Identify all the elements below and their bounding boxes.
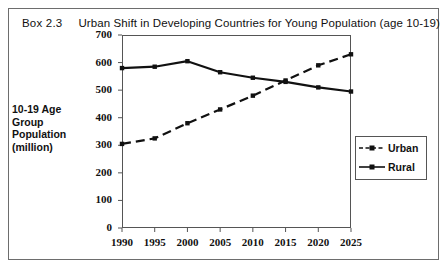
y-tick-label: 700 — [78, 28, 112, 40]
y-tick-label: 0 — [78, 221, 112, 233]
chart-legend: Urban Rural — [355, 136, 427, 180]
box-number-label: Box 2.3 — [22, 17, 62, 29]
x-tick-label: 2005 — [203, 236, 237, 248]
legend-label-urban: Urban — [388, 142, 418, 154]
x-tick-label: 2025 — [334, 236, 368, 248]
y-tick-label: 600 — [78, 56, 112, 68]
x-tick-label: 1995 — [138, 236, 172, 248]
y-tick-label: 400 — [78, 111, 112, 123]
screenshot-root: Box 2.3 Urban Shift in Developing Countr… — [0, 0, 447, 268]
y-tick-label: 300 — [78, 138, 112, 150]
y-tick-label: 200 — [78, 166, 112, 178]
legend-label-rural: Rural — [388, 161, 415, 173]
x-tick-label: 2020 — [301, 236, 335, 248]
legend-swatch-urban-icon — [359, 142, 385, 154]
plot-area-frame — [122, 35, 351, 228]
box-title-label: Urban Shift in Developing Countries for … — [78, 17, 440, 29]
legend-item-rural[interactable]: Rural — [359, 159, 415, 175]
legend-swatch-rural-icon — [359, 161, 385, 173]
legend-item-urban[interactable]: Urban — [359, 140, 418, 156]
x-tick-label: 2000 — [170, 236, 204, 248]
x-tick-label: 1990 — [105, 236, 139, 248]
x-tick-label: 2010 — [236, 236, 270, 248]
x-tick-label: 2015 — [269, 236, 303, 248]
y-tick-label: 100 — [78, 193, 112, 205]
y-tick-label: 500 — [78, 83, 112, 95]
